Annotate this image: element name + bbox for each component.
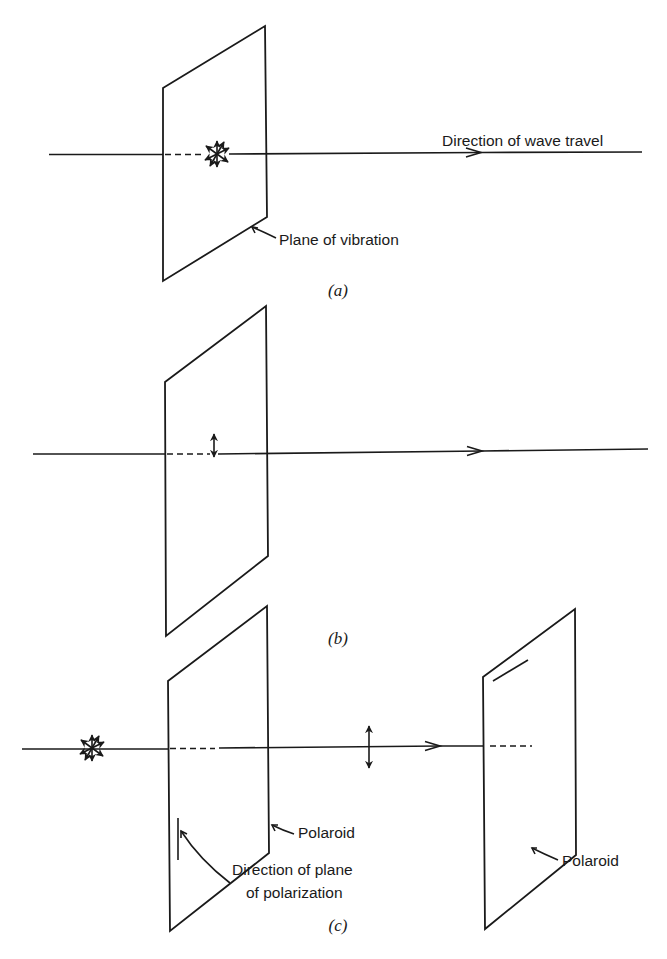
wave-line-outgoing	[218, 451, 482, 454]
polarization-direction-leader-line	[181, 831, 230, 883]
polarization-diagram: Direction of wave travel Plane of vibrat…	[0, 0, 667, 959]
caption-b: (b)	[328, 629, 348, 648]
direction-of-plane-label-line1: Direction of plane	[232, 861, 353, 878]
polaroid-2	[483, 609, 576, 929]
panel-c: Polaroid Polaroid Direction of plane of …	[22, 606, 619, 935]
caption-a: (a)	[328, 281, 348, 300]
polaroid-2-axis-mark	[493, 660, 528, 681]
plane-of-vibration	[165, 306, 268, 636]
panel-b: (b)	[33, 306, 648, 648]
wave-line-middle	[219, 746, 440, 748]
plane-leader-arrowhead-icon	[252, 227, 258, 233]
wave-line-tail	[482, 449, 648, 451]
panel-a: Direction of wave travel Plane of vibrat…	[49, 26, 642, 300]
polaroid-1	[168, 606, 269, 931]
plane-of-vibration-label: Plane of vibration	[279, 231, 399, 248]
caption-c: (c)	[329, 916, 348, 935]
polaroid-1-label: Polaroid	[298, 824, 355, 841]
direction-of-plane-label-line2: of polarization	[246, 884, 343, 901]
polaroid-2-leader-line	[532, 848, 558, 860]
polaroid-2-label: Polaroid	[562, 852, 619, 869]
polaroid-1-leader-line	[272, 825, 294, 834]
unpolarized-star-icon	[205, 141, 229, 167]
wave-line-tail	[481, 152, 642, 153]
unpolarized-star-icon	[80, 735, 104, 761]
direction-of-wave-travel-label: Direction of wave travel	[442, 132, 603, 149]
